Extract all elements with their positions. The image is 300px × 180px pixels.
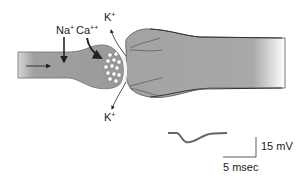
synapse-diagram (0, 0, 300, 180)
voltage-trace (168, 133, 227, 142)
ca-label: Ca++ (76, 25, 98, 36)
scale-bar (223, 137, 256, 157)
k-bottom-label: K+ (104, 112, 115, 123)
na-label: Na+ (56, 25, 74, 36)
k-top-label: K+ (104, 12, 115, 23)
time-scale-label: 5 msec (223, 162, 258, 173)
postsynaptic-cell (125, 29, 285, 98)
voltage-scale-label: 15 mV (261, 141, 293, 152)
